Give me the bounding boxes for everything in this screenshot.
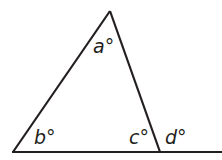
angle-label-b: b°: [34, 126, 56, 148]
angle-label-a: a°: [93, 35, 114, 57]
angle-label-c: c°: [129, 126, 149, 148]
angle-label-d: d°: [165, 126, 187, 148]
left-side: [13, 11, 110, 152]
triangle-diagram: a° b° c° d°: [0, 0, 222, 160]
